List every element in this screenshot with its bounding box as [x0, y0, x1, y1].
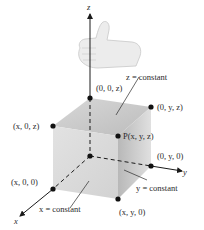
- point-P: [115, 133, 120, 138]
- y-axis: [151, 166, 182, 171]
- point-x-0-0: [50, 186, 55, 191]
- label-x-y-0: (x, y, 0): [119, 207, 146, 217]
- label-x-0-0: (x, 0, 0): [11, 177, 38, 187]
- point-x-0-z: [50, 123, 55, 128]
- point-0-y-0: [148, 163, 153, 168]
- point-0-0-z: [87, 95, 92, 100]
- label-0-0-z: (0, 0, z): [96, 83, 123, 93]
- coordinate-diagram: z y x (0, 0, z) (0, y, z) (x, 0, z) P(x,…: [0, 0, 204, 230]
- z-axis-label: z: [86, 2, 91, 12]
- label-y-constant: y = constant: [136, 183, 178, 193]
- label-0-y-z: (0, y, z): [157, 102, 183, 112]
- label-x-0-z: (x, 0, z): [13, 121, 40, 131]
- label-P: P(x, y, z): [123, 131, 154, 141]
- right-hand-thumb-up-icon: [79, 21, 141, 68]
- point-0-y-z: [148, 104, 153, 109]
- point-origin: [87, 153, 92, 158]
- x-axis-label: x: [13, 216, 18, 226]
- point-x-y-0: [115, 196, 120, 201]
- plane-x-constant: [53, 126, 118, 199]
- label-0-y-0: (0, y, 0): [157, 151, 184, 161]
- label-x-constant: x = constant: [39, 204, 81, 214]
- label-z-constant: z = constant: [126, 72, 168, 82]
- y-axis-label: y: [182, 167, 187, 177]
